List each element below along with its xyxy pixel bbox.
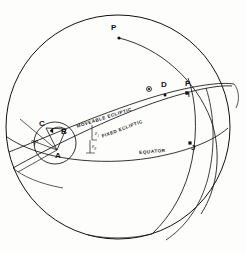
- label-point-J: J: [191, 144, 195, 152]
- label-angle-epsilon-0: ε0: [92, 143, 96, 151]
- label-angle-epsilon-1: ε1: [95, 130, 99, 138]
- label-point-R: P: [185, 80, 190, 88]
- celestial-sphere-diagram: P D P I J C B A ♈ MOVEABLE ECLIPTIC FIXE…: [0, 0, 246, 253]
- node-ray-lower-left: [18, 150, 57, 172]
- inset-arrow-head: [50, 128, 53, 133]
- sun-node-symbol-inner: [148, 88, 150, 90]
- moveable-ecliptic-circle-right: [234, 84, 238, 108]
- marker-point-P: [117, 36, 120, 39]
- label-point-D: D: [161, 81, 167, 89]
- label-point-I: I: [188, 92, 190, 98]
- colure-arc-tertiary: [166, 88, 213, 240]
- label-point-C: C: [39, 120, 45, 128]
- label-point-B: B: [61, 128, 67, 136]
- moveable-ecliptic-circle: [9, 83, 234, 152]
- marker-point-D: [164, 94, 167, 97]
- label-point-A: A: [55, 152, 61, 160]
- label-point-P: P: [111, 24, 116, 32]
- aries-vernal-equinox-symbol: ♈: [31, 139, 38, 148]
- fixed-ecliptic-circle-lower: [13, 168, 63, 188]
